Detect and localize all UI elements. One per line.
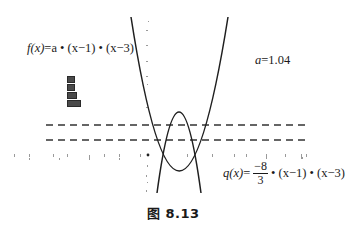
- control-button-1[interactable]: [67, 76, 75, 83]
- a-parameter-label: a=1.04: [255, 54, 290, 67]
- origin-point: [147, 154, 150, 157]
- f-formula-label: f(x)=a • (x−1) • (x−3): [27, 42, 134, 55]
- f-expression: =a • (x−1) • (x−3): [44, 41, 134, 55]
- control-button-3[interactable]: [67, 92, 77, 99]
- f-curve: [131, 17, 228, 171]
- control-button-2[interactable]: [67, 84, 75, 91]
- q-name: q(x): [223, 167, 243, 180]
- q-numerator: −8: [253, 160, 268, 174]
- q-fraction: −8 3: [253, 160, 268, 186]
- q-denominator: 3: [258, 174, 264, 187]
- f-name: f(x): [27, 41, 44, 55]
- control-button-4[interactable]: [67, 100, 81, 107]
- figure-caption: 图 8.13: [147, 203, 200, 222]
- q-equals: =: [243, 167, 250, 180]
- a-value: =1.04: [261, 53, 290, 67]
- q-expression: • (x−1) • (x−3): [271, 167, 345, 180]
- q-formula-label: q(x) = −8 3 • (x−1) • (x−3): [223, 160, 345, 186]
- q-curve: [157, 112, 201, 193]
